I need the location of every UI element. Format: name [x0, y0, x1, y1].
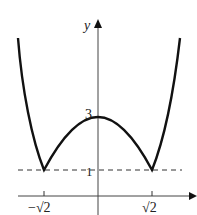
x-tick-label-neg-sqrt2: −√2: [28, 200, 51, 215]
function-graph: y 3 1 −√2 √2: [0, 0, 197, 215]
y-axis-arrow-icon: [94, 19, 102, 28]
y-axis-label: y: [82, 18, 91, 33]
y-tick-label-3: 3: [85, 107, 92, 122]
y-tick-label-1: 1: [86, 164, 93, 179]
x-axis-arrow-icon: [189, 192, 197, 200]
function-curve: [18, 38, 180, 170]
x-tick-label-pos-sqrt2: √2: [142, 200, 157, 215]
